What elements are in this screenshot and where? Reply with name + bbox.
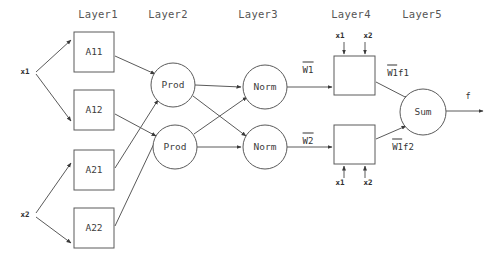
edge-x2-a22	[36, 217, 71, 243]
diagram-canvas: Layer1 Layer2 Layer3 Layer4 Layer5 x1 x2…	[0, 0, 498, 269]
box-consequent2	[334, 125, 375, 164]
weight-label-w1: W1	[303, 66, 314, 75]
layer-title-5: Layer5	[402, 9, 442, 20]
weight-label-w2: W2	[303, 137, 314, 146]
consequent-box-group	[334, 56, 375, 164]
overbar-w1	[303, 62, 314, 63]
overbar-w1f1	[387, 65, 397, 66]
edge-group-prod-to-norm	[193, 85, 247, 147]
node-label-prod-1: Prod	[162, 80, 185, 90]
consequent-input-bottom-x2: x2	[363, 179, 372, 187]
consequent-input-top-x2: x2	[363, 32, 372, 40]
layer-title-2: Layer2	[148, 9, 188, 20]
node-label-a12: A12	[85, 105, 102, 115]
membership-box-group	[74, 32, 114, 248]
node-label-a22: A22	[85, 223, 102, 233]
input-label-x1: x1	[20, 68, 29, 76]
consequent-input-bottom-x1: x1	[335, 179, 344, 187]
node-label-prod-2: Prod	[164, 142, 187, 152]
edge-x1-a12	[36, 74, 71, 121]
edge-prod1-norm1	[195, 85, 241, 87]
overbar-w2	[303, 133, 314, 134]
layer-title-3: Layer3	[238, 9, 278, 20]
node-label-a11: A11	[85, 47, 102, 57]
input-label-x2: x2	[20, 211, 29, 219]
overbar-wrapper-w2: W2	[303, 137, 314, 146]
edge-group-input-to-membership	[36, 40, 71, 243]
edge-x1-a11	[36, 40, 71, 72]
weight-text-w1f1: W1f1	[387, 68, 409, 78]
weight-label-w1f1: W1f1	[387, 69, 409, 78]
node-label-norm-1: Norm	[254, 82, 277, 92]
node-label-a21: A21	[85, 165, 102, 175]
edge-a12-prod2	[115, 114, 156, 136]
overbar-wrapper-w1f2: W1f2	[392, 143, 414, 152]
layer-title-4: Layer4	[331, 9, 371, 20]
weight-label-w1f2: W1f2	[392, 143, 414, 152]
node-label-norm-2: Norm	[254, 142, 277, 152]
diagram-graphics	[0, 0, 498, 269]
edge-x2-a21	[36, 163, 71, 213]
edge-box2-sum	[376, 126, 406, 139]
output-label-f: f	[465, 92, 470, 101]
weight-text-w2: W2	[303, 136, 314, 146]
weight-text-w1f2: W1f2	[392, 142, 414, 152]
edge-a22-prod2	[115, 133, 159, 226]
layer-title-1: Layer1	[78, 9, 118, 20]
box-consequent1	[334, 56, 375, 95]
overbar-w1f2	[392, 139, 402, 140]
consequent-input-top-x1: x1	[335, 32, 344, 40]
weight-text-w1: W1	[303, 65, 314, 75]
edge-a11-prod1	[115, 56, 155, 74]
overbar-wrapper-w1: W1	[303, 66, 314, 75]
overbar-wrapper-w1f1: W1f1	[387, 69, 409, 78]
node-label-sum: Sum	[414, 107, 431, 117]
edge-box1-sum	[376, 82, 409, 99]
